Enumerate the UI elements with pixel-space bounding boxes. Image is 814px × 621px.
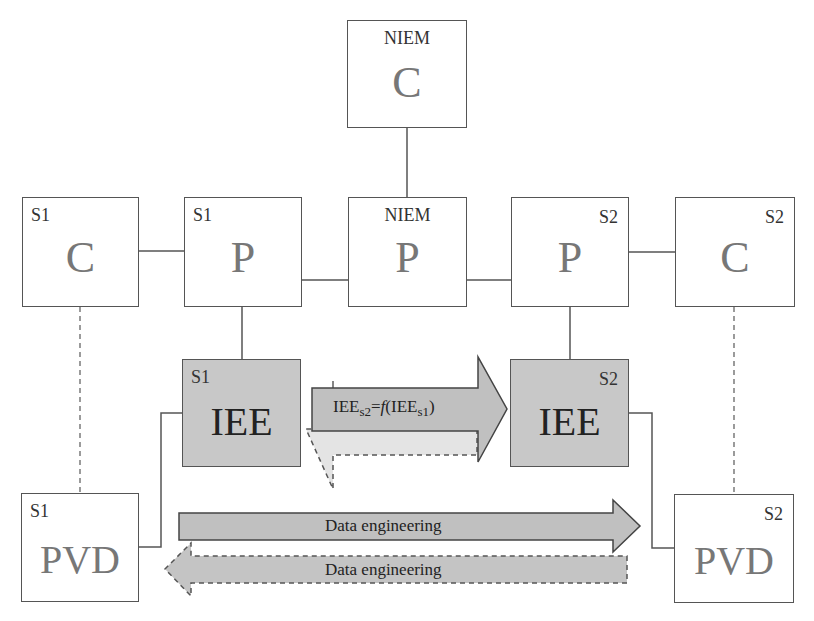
s2-c-box: S2 C (675, 197, 795, 307)
box-label: C (348, 61, 466, 105)
s1-pvd-box: S1 PVD (21, 493, 139, 602)
formula-lhs-sub: s2 (359, 404, 371, 419)
s1-iee-box: S1 IEE (182, 359, 301, 467)
box-label: PVD (675, 541, 793, 581)
box-label: P (349, 236, 466, 280)
box-tag: S1 (193, 206, 212, 224)
formula-close: ) (429, 397, 435, 416)
formula-lhs: IEE (333, 397, 359, 416)
formula-equals: = (371, 397, 381, 416)
box-label: PVD (22, 540, 138, 580)
s1-c-box: S1 C (22, 197, 139, 307)
box-tag: NIEM (349, 206, 466, 224)
iee-backward-dashed-arrow (306, 429, 477, 489)
box-tag: S2 (599, 370, 618, 388)
box-tag: S1 (31, 206, 50, 224)
box-tag: S1 (191, 368, 210, 386)
box-label: C (676, 236, 794, 280)
s2-p-box: S2 P (511, 197, 629, 307)
box-label: C (23, 236, 138, 280)
data-engineering-backward-label: Data engineering (325, 560, 442, 580)
formula-arg: (IEE (385, 397, 417, 416)
box-tag: S2 (599, 208, 618, 226)
box-label: IEE (183, 402, 300, 442)
niem-c-box: NIEM C (347, 20, 467, 128)
data-engineering-forward-label: Data engineering (325, 516, 442, 536)
box-tag: NIEM (348, 29, 466, 47)
box-label: P (185, 236, 301, 280)
s1-p-box: S1 P (184, 197, 302, 307)
connector-s1iee-s1pvd (139, 413, 182, 547)
box-tag: S2 (764, 505, 783, 523)
box-tag: S1 (30, 502, 49, 520)
s2-pvd-box: S2 PVD (674, 494, 794, 603)
box-label: P (512, 236, 628, 280)
box-label: IEE (511, 402, 628, 442)
formula-arg-sub: s1 (417, 404, 429, 419)
niem-p-box: NIEM P (348, 197, 467, 307)
s2-iee-box: S2 IEE (510, 359, 629, 467)
iee-transform-formula: IEEs2=f(IEEs1) (333, 397, 435, 420)
box-tag: S2 (765, 208, 784, 226)
